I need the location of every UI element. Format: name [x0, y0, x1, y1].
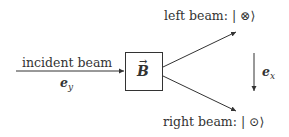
left-beam-text: left beam: — [164, 8, 232, 23]
left-beam-arrow — [163, 32, 236, 67]
ex-axis-label: ex — [262, 66, 275, 79]
right-beam-arrow — [163, 76, 236, 111]
right-beam-ket: | ⊙⟩ — [241, 114, 265, 129]
ex-vector-subscript: x — [270, 71, 275, 81]
incident-vector-subscript: y — [68, 82, 73, 92]
right-beam-text: right beam: — [163, 114, 241, 129]
right-beam-label: right beam: | ⊙⟩ — [163, 116, 264, 129]
incident-vector-symbol: e — [60, 75, 68, 90]
vector-arrow-accent: → — [139, 57, 147, 67]
left-beam-ket: | ⊗⟩ — [232, 8, 256, 23]
field-symbol: → B — [137, 64, 149, 78]
left-beam-label: left beam: | ⊗⟩ — [164, 10, 255, 23]
incident-vector-label: ey — [60, 77, 73, 90]
incident-beam-label: incident beam — [22, 57, 112, 70]
ex-vector-symbol: e — [262, 64, 270, 79]
